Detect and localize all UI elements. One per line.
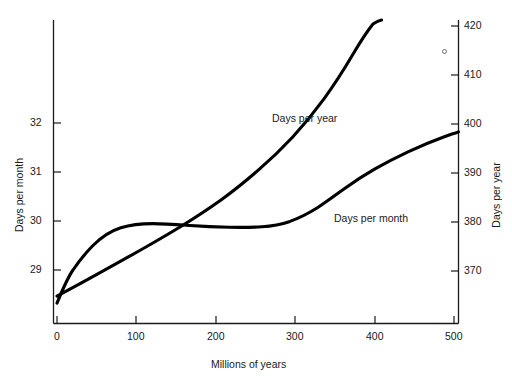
series-annotation-days-per-year: Days per year (272, 113, 337, 124)
ytick-label-30: 30 (30, 215, 42, 226)
xtick-label-400: 400 (366, 331, 384, 342)
x-axis-ticks (57, 316, 454, 324)
plot-canvas (0, 0, 512, 382)
right-axis-title: Days per year (491, 162, 502, 227)
x-axis-title: Millions of years (211, 359, 286, 370)
series-annotation-days-per-month: Days per month (334, 213, 408, 224)
ytick-label-32: 32 (30, 117, 42, 128)
y2tick-label-420: 420 (464, 20, 482, 31)
y2tick-label-380: 380 (464, 216, 482, 227)
scan-artifact-speck (442, 49, 447, 54)
ytick-label-31: 31 (30, 166, 42, 177)
y2tick-label-390: 390 (464, 167, 482, 178)
xtick-label-100: 100 (127, 331, 145, 342)
right-axis-ticks (451, 26, 459, 271)
left-axis-title: Days per month (14, 158, 25, 232)
series-line-days-per-year (57, 20, 382, 296)
xtick-label-200: 200 (207, 331, 225, 342)
y2tick-label-410: 410 (464, 69, 482, 80)
xtick-label-500: 500 (445, 331, 463, 342)
xtick-label-0: 0 (54, 331, 60, 342)
y2tick-label-400: 400 (464, 118, 482, 129)
ytick-label-29: 29 (30, 264, 42, 275)
xtick-label-300: 300 (286, 331, 304, 342)
left-axis-ticks (54, 123, 62, 270)
y2tick-label-370: 370 (464, 265, 482, 276)
chart-figure: 32 31 30 29 420 410 400 390 380 370 0 10… (0, 0, 512, 382)
